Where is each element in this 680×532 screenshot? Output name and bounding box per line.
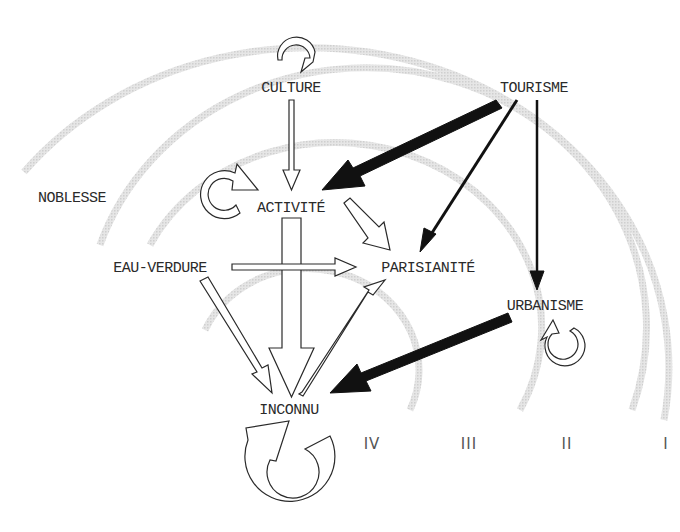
arrow-activite-inconnu bbox=[269, 218, 314, 397]
loop-culture bbox=[278, 37, 315, 72]
zone-label-iv: IV bbox=[364, 435, 381, 453]
node-activite: ACTIVITÉ bbox=[257, 200, 325, 217]
loop-activite bbox=[201, 164, 258, 219]
node-culture: CULTURE bbox=[261, 80, 321, 97]
node-urbanisme: URBANISME bbox=[507, 298, 584, 315]
diagram-canvas: CULTURE TOURISME NOBLESSE ACTIVITÉ EAU-V… bbox=[0, 0, 680, 532]
zone-label-ii: II bbox=[562, 435, 573, 453]
node-noblesse: NOBLESSE bbox=[38, 190, 106, 207]
node-inconnu: INCONNU bbox=[259, 402, 319, 419]
zone-label-i: I bbox=[663, 435, 668, 453]
node-parisianite: PARISIANITÉ bbox=[381, 260, 475, 277]
loop-urbanisme bbox=[541, 320, 585, 366]
node-tourisme: TOURISME bbox=[500, 80, 568, 97]
diagram-graphics bbox=[0, 0, 680, 532]
arrow-activite-parisianite bbox=[344, 198, 390, 250]
node-eau-verdure: EAU-VERDURE bbox=[113, 260, 207, 277]
loop-inconnu bbox=[245, 421, 335, 501]
zone-label-iii: III bbox=[461, 435, 477, 453]
